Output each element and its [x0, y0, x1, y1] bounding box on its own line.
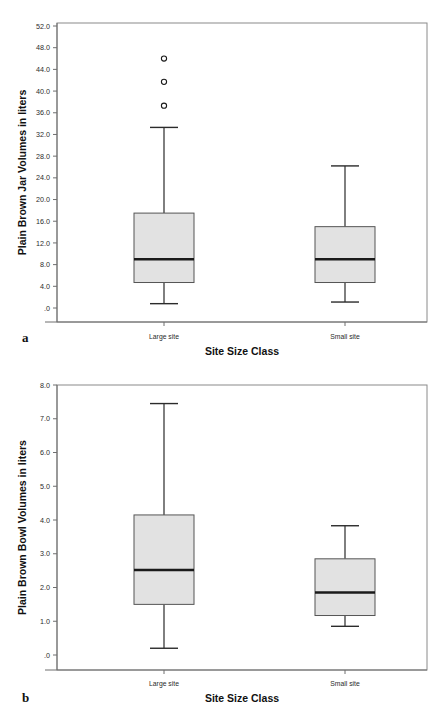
boxplot-box: [134, 56, 194, 304]
x-category-label: Large site: [149, 680, 179, 688]
y-tick-label: 48.0: [36, 43, 50, 52]
boxplot-chart-b: .01.02.03.04.05.06.07.08.0Plain Brown Bo…: [0, 357, 444, 719]
y-tick-label: 7.0: [40, 414, 50, 423]
x-axis-title: Site Size Class: [205, 692, 279, 704]
y-tick-label: 8.0: [40, 381, 50, 390]
y-tick-label: 3.0: [40, 549, 50, 558]
y-tick-label: 36.0: [36, 108, 50, 117]
y-tick-label: 12.0: [36, 239, 50, 248]
x-category-label: Small site: [330, 680, 360, 687]
y-tick-label: 1.0: [40, 617, 50, 626]
boxplot-panel-b: .01.02.03.04.05.06.07.08.0Plain Brown Bo…: [0, 357, 444, 719]
box-iqr: [315, 227, 375, 283]
y-tick-label: 5.0: [40, 482, 50, 491]
y-tick-label: .0: [44, 651, 50, 660]
y-tick-label: 52.0: [36, 22, 50, 31]
y-tick-label: 16.0: [36, 217, 50, 226]
x-axis-title: Site Size Class: [205, 345, 279, 357]
outlier-point: [161, 103, 166, 108]
boxplot-box: [134, 404, 194, 649]
plot-frame: [57, 385, 427, 670]
box-iqr: [315, 559, 375, 616]
y-tick-label: 20.0: [36, 195, 50, 204]
y-axis-title: Plain Brown Jar Volumes in liters: [16, 90, 28, 256]
y-axis-title: Plain Brown Bowl Volumes in liters: [16, 440, 28, 615]
outlier-point: [161, 56, 166, 61]
y-tick-label: 8.0: [40, 260, 50, 269]
panel-label-b: b: [22, 690, 29, 706]
boxplot-chart-a: .04.08.012.016.020.024.028.032.036.040.0…: [0, 0, 444, 360]
y-tick-label: 2.0: [40, 583, 50, 592]
y-tick-label: 4.0: [40, 282, 50, 291]
y-tick-label: .0: [44, 304, 50, 313]
boxplot-box: [315, 166, 375, 302]
y-tick-label: 6.0: [40, 448, 50, 457]
x-category-label: Large site: [149, 333, 179, 341]
panel-label-a: a: [22, 330, 29, 346]
boxplot-box: [315, 526, 375, 627]
boxplot-panel-a: .04.08.012.016.020.024.028.032.036.040.0…: [0, 0, 444, 360]
box-iqr: [134, 213, 194, 282]
outlier-point: [161, 79, 166, 84]
y-tick-label: 4.0: [40, 516, 50, 525]
y-tick-label: 40.0: [36, 87, 50, 96]
y-tick-label: 32.0: [36, 130, 50, 139]
y-tick-label: 44.0: [36, 65, 50, 74]
x-category-label: Small site: [330, 333, 360, 340]
box-iqr: [134, 515, 194, 604]
y-tick-label: 24.0: [36, 173, 50, 182]
y-tick-label: 28.0: [36, 152, 50, 161]
